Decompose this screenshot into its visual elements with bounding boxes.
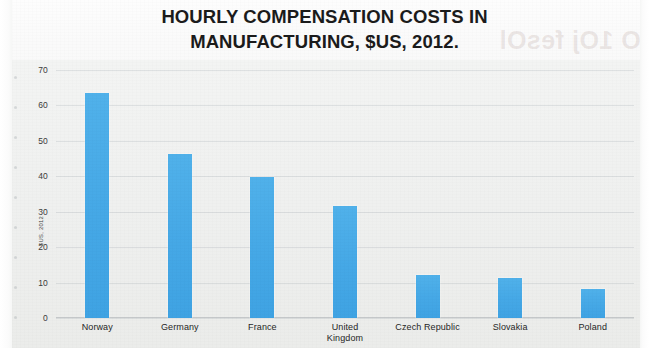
chart-title-line-2: MANUFACTURING, $US, 2012. <box>0 29 649 54</box>
gridline <box>56 176 634 177</box>
scan-speck <box>14 286 17 289</box>
page-right-edge <box>640 0 649 360</box>
y-axis-tick-label: 40 <box>22 171 48 181</box>
page-left-edge <box>0 0 12 360</box>
page-bottom-margin <box>0 348 649 360</box>
bar-slovakia[interactable] <box>498 278 522 318</box>
x-axis-tick-label: Czech Republic <box>386 322 469 333</box>
x-axis-tick-label: UnitedKingdom <box>304 322 387 344</box>
x-axis-tick-label: Norway <box>56 322 139 333</box>
bar-czech-republic[interactable] <box>416 275 440 318</box>
scan-speck <box>14 136 17 139</box>
gridline <box>56 318 634 319</box>
y-axis-tick-label: 60 <box>22 100 48 110</box>
plot-inner: 706050403020100NorwayGermanyFranceUnited… <box>56 70 634 318</box>
x-axis-tick-label-line: Kingdom <box>304 333 387 344</box>
y-axis-tick-label: 20 <box>22 242 48 252</box>
x-axis-tick-label: France <box>221 322 304 333</box>
scan-speck <box>14 76 17 79</box>
x-axis-tick-label-line: France <box>221 322 304 333</box>
x-axis-tick-label: Slovakia <box>469 322 552 333</box>
gridline <box>56 70 634 71</box>
chart-title-line-1: HOURLY COMPENSATION COSTS IN <box>0 4 649 29</box>
scan-speck <box>14 256 17 259</box>
x-axis-tick-label: Poland <box>551 322 634 333</box>
x-axis-tick-label-line: United <box>304 322 387 333</box>
y-axis-tick-label: 10 <box>22 278 48 288</box>
y-axis-tick-label: 70 <box>22 65 48 75</box>
gridline <box>56 141 634 142</box>
chart-figure: O 1Oj fesOl HOURLY COMPENSATION COSTS IN… <box>0 0 649 360</box>
scan-speck <box>14 166 17 169</box>
y-axis-tick-label: 50 <box>22 136 48 146</box>
bar-norway[interactable] <box>85 93 109 318</box>
chart-title: HOURLY COMPENSATION COSTS IN MANUFACTURI… <box>0 4 649 54</box>
x-axis-tick-label-line: Germany <box>139 322 222 333</box>
y-axis-tick-label: 0 <box>22 313 48 323</box>
x-axis-tick-label-line: Poland <box>551 322 634 333</box>
bar-poland[interactable] <box>581 289 605 318</box>
x-axis-tick-label-line: Norway <box>56 322 139 333</box>
scan-speck <box>14 196 17 199</box>
x-axis-tick-label: Germany <box>139 322 222 333</box>
bar-france[interactable] <box>250 177 274 318</box>
scan-speck <box>14 316 17 319</box>
x-axis-tick-label-line: Slovakia <box>469 322 552 333</box>
scan-speck <box>14 226 17 229</box>
plot-area: $US, 2012 706050403020100NorwayGermanyFr… <box>12 60 640 348</box>
bar-united-kingdom[interactable] <box>333 206 357 318</box>
bar-germany[interactable] <box>168 154 192 318</box>
x-axis-tick-label-line: Czech Republic <box>386 322 469 333</box>
y-axis-tick-label: 30 <box>22 207 48 217</box>
scan-speck <box>14 106 17 109</box>
gridline <box>56 105 634 106</box>
